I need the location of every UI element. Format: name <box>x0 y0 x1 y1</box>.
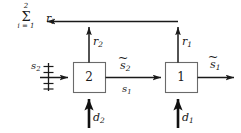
tilde-accent-icon: ~ <box>118 54 129 64</box>
signal-label-s2-tilde: ~s2 <box>120 60 130 73</box>
summation-term-subscript: i <box>51 17 53 26</box>
block-1-label: 1 <box>165 71 197 83</box>
summation-term-label: ri <box>46 13 54 26</box>
signal-label-d2: d2 <box>93 112 105 125</box>
signal-label-s1-subscript: 1 <box>127 88 131 96</box>
signal-label-r1: r1 <box>182 36 192 49</box>
signal-label-s1-tilde-subscript: 1 <box>216 63 221 72</box>
signal-label-d2-base: d <box>93 111 100 124</box>
summation-lower-limit: i = 1 <box>8 23 44 31</box>
signal-label-d1-base: d <box>182 111 189 124</box>
signal-label-s1-tilde: ~s1 <box>210 59 220 72</box>
signal-label-s2-input-subscript: 2 <box>36 65 40 73</box>
signal-label-d1: d1 <box>182 112 194 125</box>
signal-label-d1-subscript: 1 <box>189 116 194 125</box>
signal-label-d2-subscript: 2 <box>100 116 105 125</box>
signal-label-s1: s1 <box>122 84 131 96</box>
block-diagram-canvas: 2 Σ i = 1 ri r2 r1 s2 ~s2 s1 ~s1 d2 d1 2… <box>0 0 241 133</box>
block-2-label: 2 <box>73 71 105 83</box>
signal-label-s2-input: s2 <box>31 61 40 73</box>
tilde-accent-icon: ~ <box>208 53 219 63</box>
signal-label-r2: r2 <box>93 36 103 49</box>
signal-label-r2-subscript: 2 <box>98 40 103 49</box>
summation-operator: 2 Σ i = 1 <box>8 3 44 31</box>
signal-label-s1-tilde-base: ~s <box>210 59 216 70</box>
signal-label-s2-tilde-base: ~s <box>120 60 126 71</box>
signal-label-s2-tilde-subscript: 2 <box>126 64 131 73</box>
signal-label-r1-subscript: 1 <box>187 40 192 49</box>
